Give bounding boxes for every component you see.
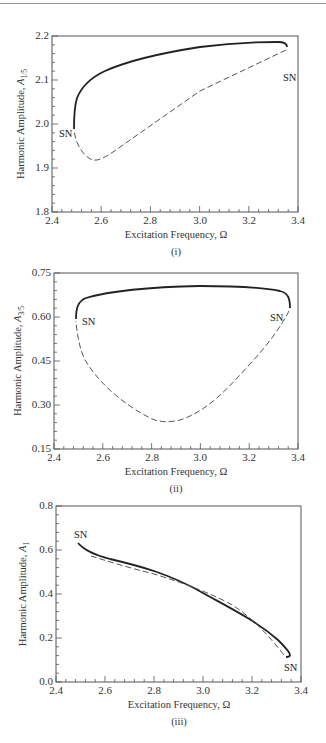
x-tick-label: 3.2 (242, 451, 256, 463)
y-ticks (52, 36, 58, 212)
x-minor-ticks (56, 676, 301, 682)
x-tick-label: 3.4 (294, 684, 308, 696)
y-tick-labels: 1.8 1.9 2.0 2.1 2.2 (35, 29, 49, 217)
panel-iii: 0.0 0.2 0.4 0.6 0.8 2.4 2.6 2.8 3.0 3.2 … (17, 499, 308, 728)
sn-label-left: SN (59, 128, 73, 139)
x-tick-label: 2.4 (47, 451, 61, 463)
y-tick-label: 0.6 (39, 543, 53, 555)
x-tick-label: 2.8 (143, 214, 157, 226)
y-tick-label: 1.9 (35, 161, 49, 173)
y-ticks (56, 506, 62, 682)
x-tick-labels: 2.4 2.6 2.8 3.0 3.2 3.4 (49, 684, 308, 696)
x-tick-label: 3.2 (245, 684, 259, 696)
panel-caption: (ii) (170, 483, 183, 495)
x-tick-label: 2.8 (145, 451, 159, 463)
figure: 1.8 1.9 2.0 2.1 2.2 2.4 2.6 2.8 3.0 3.2 … (0, 0, 326, 743)
sn-label-right: SN (284, 662, 298, 673)
sn-label-right: SN (283, 72, 297, 83)
panel-ii: 0.15 0.30 0.45 0.60 0.75 2.4 2.6 2.8 3.0… (12, 266, 305, 495)
x-axis-title: Excitation Frequency, Ω (125, 229, 228, 240)
x-tick-label: 3.4 (291, 451, 305, 463)
x-tick-labels: 2.4 2.6 2.8 3.0 3.2 3.4 (45, 214, 305, 226)
x-tick-label: 2.6 (96, 451, 110, 463)
y-tick-label: 0.2 (39, 631, 53, 643)
x-tick-label: 3.0 (193, 214, 207, 226)
y-tick-labels: 0.0 0.2 0.4 0.6 0.8 (39, 499, 53, 687)
y-axis-title: Harmonic Amplitude, A3/5 (12, 306, 26, 416)
stable-branch (78, 543, 290, 657)
x-tick-label: 2.6 (98, 684, 112, 696)
y-tick-label: 0.30 (32, 398, 52, 410)
x-tick-label: 2.4 (45, 214, 59, 226)
sn-label-left: SN (82, 316, 96, 327)
x-tick-label: 3.0 (193, 451, 207, 463)
sn-label-left: SN (74, 529, 88, 540)
x-axis-title: Excitation Frequency, Ω (128, 699, 231, 710)
panel-caption: (iii) (171, 716, 187, 728)
x-tick-label: 2.6 (94, 214, 108, 226)
stable-branch (74, 42, 287, 129)
x-tick-label: 3.0 (196, 684, 210, 696)
x-axis-title: Excitation Frequency, Ω (125, 466, 228, 477)
x-tick-label: 3.4 (291, 214, 305, 226)
x-minor-ticks (52, 206, 298, 212)
x-minor-ticks (54, 443, 298, 449)
x-tick-label: 3.2 (242, 214, 256, 226)
y-tick-label: 0.4 (39, 587, 53, 599)
panel-i: 1.8 1.9 2.0 2.1 2.2 2.4 2.6 2.8 3.0 3.2 … (15, 29, 305, 258)
x-tick-labels: 2.4 2.6 2.8 3.0 3.2 3.4 (47, 451, 305, 463)
y-tick-label: 2.1 (35, 73, 49, 85)
unstable-branch (91, 556, 284, 655)
unstable-branch (74, 50, 286, 160)
y-tick-label: 0.45 (32, 354, 52, 366)
y-tick-label: 0.60 (32, 310, 52, 322)
panel-caption: (i) (171, 246, 181, 258)
x-tick-label: 2.4 (49, 684, 63, 696)
y-tick-label: 2.2 (35, 29, 49, 41)
unstable-branch (76, 311, 289, 422)
plot-frame (56, 506, 301, 682)
y-axis-title: Harmonic Amplitude, A1/5 (15, 69, 29, 179)
y-ticks (54, 273, 60, 449)
y-tick-label: 0.8 (39, 499, 53, 511)
x-tick-label: 2.8 (147, 684, 161, 696)
y-tick-label: 0.75 (32, 266, 52, 278)
stable-branch (76, 286, 290, 319)
y-tick-labels: 0.15 0.30 0.45 0.60 0.75 (32, 266, 52, 454)
sn-label-right: SN (270, 312, 284, 323)
y-axis-title: Harmonic Amplitude, A1 (17, 542, 31, 647)
y-tick-label: 2.0 (35, 117, 49, 129)
plot-frame (54, 273, 298, 449)
